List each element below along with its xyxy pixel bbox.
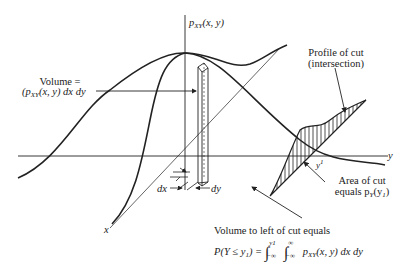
volume-left-arrow bbox=[252, 187, 302, 218]
cut-label: y1 bbox=[316, 157, 324, 171]
joint-density-diagram bbox=[0, 0, 402, 272]
profile-arrow bbox=[335, 68, 345, 112]
y-axis-label: y bbox=[388, 150, 393, 161]
bottom-annotation-formula: P(Y ≤ y1) = ∫y1−∞ ∫∞−∞ pXY(x, y) dx dy bbox=[214, 244, 363, 261]
dy-label: dy bbox=[211, 183, 221, 194]
z-axis-label: pXY(x, y) bbox=[189, 17, 224, 32]
area-label: Area of cut equals pY(y1) bbox=[326, 175, 398, 201]
x-axis bbox=[110, 48, 280, 228]
surface-profile-top bbox=[185, 45, 287, 65]
volume-column bbox=[198, 63, 208, 186]
x-axis-label: x bbox=[104, 224, 109, 235]
surface-profile-x bbox=[112, 53, 185, 224]
volume-formula: (pXY(x, y) dx dy bbox=[22, 86, 86, 101]
profile-label: Profile of cut (intersection) bbox=[306, 47, 366, 69]
bottom-annotation-title: Volume to left of cut equals bbox=[214, 225, 330, 236]
dx-label: dx bbox=[157, 183, 167, 194]
